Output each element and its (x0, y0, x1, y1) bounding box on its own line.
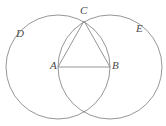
geometry-figure: A B C D E (0, 0, 166, 126)
circle-label-d: D (16, 28, 24, 39)
segment-BC (84, 21, 110, 67)
vertex-label-a: A (50, 60, 57, 71)
vertex-label-b: B (112, 60, 119, 71)
geometry-canvas (0, 0, 166, 126)
segment-AC (58, 21, 84, 67)
vertex-label-c: C (80, 5, 87, 16)
circle-label-e: E (136, 23, 143, 34)
